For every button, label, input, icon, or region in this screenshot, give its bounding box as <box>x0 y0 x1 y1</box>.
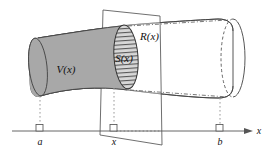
label-cross-section: S(x) <box>115 52 133 65</box>
right-end-cap-ellipse <box>233 19 245 97</box>
label-volume: V(x) <box>57 63 76 76</box>
x-axis-arrowhead <box>244 128 253 134</box>
axis-tick-label-b: b <box>218 136 223 147</box>
axis-tick-square-b <box>216 125 223 132</box>
axis-tick-label-a: a <box>38 136 43 147</box>
solid-volume-diagram: V(x) S(x) R(x) a x b x <box>0 0 273 157</box>
axis-tick-label-x: x <box>111 136 117 147</box>
figure-container: V(x) S(x) R(x) a x b x <box>0 0 273 157</box>
axis-name-label: x <box>256 125 262 136</box>
label-radius: R(x) <box>139 30 159 43</box>
axis-tick-square-a <box>36 125 43 132</box>
axis-tick-square-x <box>110 125 117 132</box>
